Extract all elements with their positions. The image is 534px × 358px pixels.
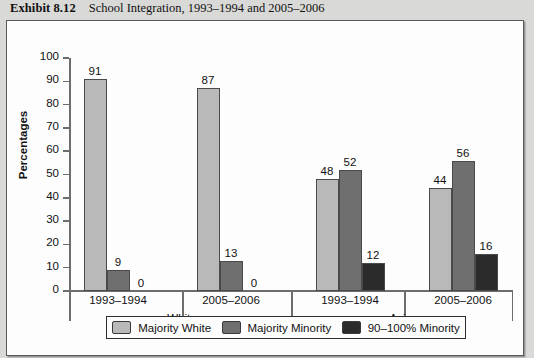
bar-value-label: 56 xyxy=(457,147,470,159)
exhibit-title-text: School Integration, 1993–1994 and 2005–2… xyxy=(89,1,325,15)
legend-label: Majority White xyxy=(138,322,211,334)
y-tick-label: 40 xyxy=(33,190,59,202)
x-period-label: 1993–1994 xyxy=(78,294,158,306)
bar-value-label: 12 xyxy=(367,249,380,261)
x-axis-separator-tick xyxy=(512,291,514,321)
bar-value-label: 0 xyxy=(251,277,257,289)
legend-swatch-icon xyxy=(112,321,131,334)
bar[interactable] xyxy=(475,254,498,291)
y-tick-label: 100 xyxy=(33,50,59,62)
bar[interactable] xyxy=(197,88,220,291)
y-tick-label: 80 xyxy=(33,97,59,109)
legend-label: Majority Minority xyxy=(248,322,332,334)
bar-value-label: 87 xyxy=(202,74,215,86)
legend-item[interactable]: Majority Minority xyxy=(222,321,332,334)
bar-cluster: 87130 xyxy=(197,58,266,291)
x-period-label: 2005–2006 xyxy=(191,294,271,306)
plot-area: 0102030405060708090100 Percentages 91908… xyxy=(7,21,523,355)
y-tick-label: 10 xyxy=(33,260,59,272)
y-tick-label: 90 xyxy=(33,73,59,85)
legend-swatch-icon xyxy=(342,321,361,334)
bar[interactable] xyxy=(316,179,339,291)
y-axis-title: Percentages xyxy=(17,105,29,185)
bar-value-label: 91 xyxy=(89,65,102,77)
x-axis-separator-tick xyxy=(69,291,71,321)
bar[interactable] xyxy=(220,261,243,291)
bar-value-label: 52 xyxy=(344,156,357,168)
bar-value-label: 9 xyxy=(115,256,121,268)
bar-cluster: 445616 xyxy=(429,58,498,291)
bar-value-label: 16 xyxy=(480,240,493,252)
exhibit-number: Exhibit 8.12 xyxy=(10,1,76,15)
y-tick-label: 70 xyxy=(33,120,59,132)
bar-value-label: 44 xyxy=(434,174,447,186)
y-tick-label: 50 xyxy=(33,167,59,179)
bar[interactable] xyxy=(84,79,107,291)
bar[interactable] xyxy=(107,270,130,291)
y-tick-label: 0 xyxy=(33,283,59,295)
chart-legend: Majority WhiteMajority Minority90–100% M… xyxy=(106,316,466,339)
chart-panel: 0102030405060708090100 Percentages 91908… xyxy=(6,20,524,356)
y-tick-label: 20 xyxy=(33,236,59,248)
bar[interactable] xyxy=(362,263,385,291)
y-tick-label: 60 xyxy=(33,143,59,155)
x-period-label: 1993–1994 xyxy=(310,294,390,306)
bar[interactable] xyxy=(429,188,452,291)
bar[interactable] xyxy=(339,170,362,291)
bar-value-label: 0 xyxy=(138,277,144,289)
bars-layer: 919087130485212445616 xyxy=(69,58,513,291)
exhibit-title: Exhibit 8.12School Integration, 1993–199… xyxy=(10,1,325,16)
legend-item[interactable]: Majority White xyxy=(112,321,211,334)
bar-value-label: 13 xyxy=(225,247,238,259)
bar-value-label: 48 xyxy=(321,165,334,177)
legend-item[interactable]: 90–100% Minority xyxy=(342,321,460,334)
bar-cluster: 485212 xyxy=(316,58,385,291)
legend-swatch-icon xyxy=(222,321,241,334)
legend-label: 90–100% Minority xyxy=(368,322,460,334)
bar[interactable] xyxy=(452,161,475,291)
y-tick-label: 30 xyxy=(33,213,59,225)
bar-cluster: 9190 xyxy=(84,58,153,291)
x-period-label: 2005–2006 xyxy=(423,294,503,306)
